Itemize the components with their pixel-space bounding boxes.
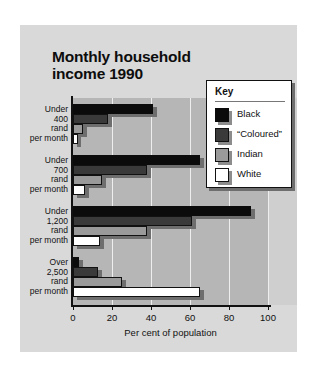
category-label-1: Under 700 rand per month	[0, 156, 68, 194]
legend-divider	[215, 101, 285, 102]
tick-label-0: 0	[60, 312, 86, 323]
legend-label-coloured: “Coloured”	[237, 128, 282, 139]
bar-g2-coloured	[73, 216, 192, 226]
tick-label-100: 100	[255, 312, 281, 323]
bar-g0-black	[73, 104, 153, 114]
bar-g0-indian	[73, 124, 83, 134]
bar-g1-white	[73, 185, 85, 195]
tick-label-40: 40	[138, 312, 164, 323]
bar-g2-white	[73, 236, 100, 246]
x-axis-title: Per cent of population	[73, 327, 268, 338]
chart-title-line-1: Monthly household	[52, 48, 242, 65]
tick-40	[151, 305, 152, 310]
legend: Key Black “Coloured” Indian White	[206, 80, 292, 188]
y-axis	[71, 96, 73, 307]
gridline-20	[112, 98, 113, 305]
bar-g3-white	[73, 287, 200, 297]
tick-label-20: 20	[99, 312, 125, 323]
gridline-60	[190, 98, 191, 305]
category-label-3: Over 2,500 rand per month	[0, 258, 68, 296]
legend-label-indian: Indian	[237, 148, 263, 159]
bar-g3-coloured	[73, 267, 98, 277]
bar-g1-black	[73, 155, 200, 165]
tick-60	[190, 305, 191, 310]
legend-label-white: White	[237, 168, 261, 179]
chart-title: Monthly household income 1990	[52, 48, 242, 82]
bar-g2-indian	[73, 226, 147, 236]
tick-label-80: 80	[216, 312, 242, 323]
tick-100	[268, 305, 269, 310]
legend-swatch-white-icon	[215, 168, 229, 182]
legend-swatch-indian-icon	[215, 148, 229, 162]
tick-20	[112, 305, 113, 310]
bar-g3-indian	[73, 277, 122, 287]
legend-title: Key	[215, 86, 233, 97]
legend-label-black: Black	[237, 108, 260, 119]
bar-g1-coloured	[73, 165, 147, 175]
legend-swatch-black-icon	[215, 108, 229, 122]
x-axis	[71, 305, 271, 307]
bar-g3-black	[73, 257, 79, 267]
legend-swatch-coloured-icon	[215, 128, 229, 142]
tick-label-60: 60	[177, 312, 203, 323]
bar-g0-coloured	[73, 114, 108, 124]
tick-80	[229, 305, 230, 310]
category-label-2: Under 1,200 rand per month	[0, 207, 68, 245]
bar-g2-black	[73, 206, 251, 216]
gridline-40	[151, 98, 152, 305]
tick-0	[73, 305, 74, 310]
category-label-0: Under 400 rand per month	[0, 105, 68, 143]
bar-g1-indian	[73, 175, 102, 185]
chart-root: Monthly household income 1990 Under 400 …	[0, 0, 323, 377]
bar-g0-white	[73, 134, 78, 144]
